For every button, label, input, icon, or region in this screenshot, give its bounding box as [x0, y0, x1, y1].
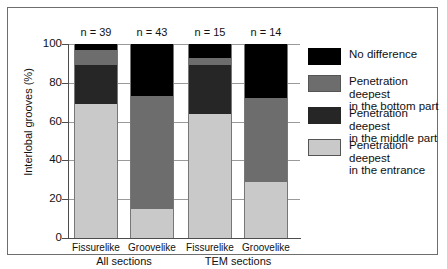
legend-swatch-bottom-part	[308, 75, 341, 92]
bar-segment-bottom-part[interactable]	[75, 50, 117, 66]
y-axis-tick-label: 0	[28, 232, 62, 243]
legend-label: Penetration deepest in the entrance	[349, 139, 440, 177]
bar-n-label: n = 15	[195, 26, 226, 38]
x-axis-group-label: All sections	[69, 255, 179, 267]
bar-segment-entrance[interactable]	[131, 209, 173, 238]
bar-segment-no-difference[interactable]	[189, 44, 231, 58]
legend-swatch-no-difference	[308, 48, 341, 65]
plot-area: n = 39n = 43n = 15n = 14	[68, 44, 300, 238]
bar-n-label: n = 14	[251, 26, 282, 38]
bar-n-label: n = 39	[81, 26, 112, 38]
bar-segment-entrance[interactable]	[245, 182, 287, 238]
bar[interactable]: n = 14	[244, 44, 288, 238]
x-axis-line	[68, 238, 301, 239]
legend-label: No difference	[349, 48, 417, 61]
bar-segment-bottom-part[interactable]	[245, 98, 287, 181]
bar-segment-bottom-part[interactable]	[189, 58, 231, 66]
bar[interactable]: n = 39	[74, 44, 118, 238]
bar-segment-middle-part[interactable]	[75, 65, 117, 104]
bar-segment-entrance[interactable]	[189, 114, 231, 238]
x-axis-category-label: Groovelike	[232, 242, 300, 253]
bar-segment-bottom-part[interactable]	[131, 96, 173, 209]
legend-swatch-entrance	[308, 139, 341, 156]
legend-item[interactable]: No difference	[308, 48, 417, 65]
x-axis-group-label: TEM sections	[183, 255, 293, 267]
legend-item[interactable]: Penetration deepest in the entrance	[308, 139, 440, 177]
bar-n-label: n = 43	[137, 26, 168, 38]
bar[interactable]: n = 43	[130, 44, 174, 238]
chart-frame: 100806040200 Interlobal grooves (%) n = …	[7, 7, 438, 255]
bar[interactable]: n = 15	[188, 44, 232, 238]
bar-segment-entrance[interactable]	[75, 104, 117, 238]
bar-segment-no-difference[interactable]	[245, 44, 287, 98]
y-axis-title: Interlobal grooves (%)	[22, 42, 34, 202]
bar-segment-no-difference[interactable]	[131, 44, 173, 96]
legend-swatch-middle-part	[308, 107, 341, 124]
bar-segment-middle-part[interactable]	[189, 65, 231, 114]
